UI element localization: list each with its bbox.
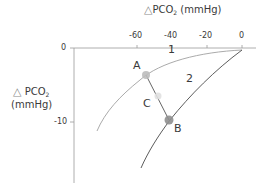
point-b-label: B bbox=[174, 123, 182, 134]
point-b-marker bbox=[165, 116, 174, 125]
curve-1-label: 1 bbox=[168, 44, 175, 55]
diagram-canvas bbox=[0, 0, 264, 187]
point-a-label: A bbox=[133, 60, 141, 71]
point-c-marker bbox=[155, 93, 162, 100]
point-a-marker bbox=[142, 71, 150, 79]
curve-2 bbox=[141, 50, 242, 168]
curve-2-label: 2 bbox=[186, 73, 193, 84]
point-c-label: C bbox=[143, 98, 151, 109]
